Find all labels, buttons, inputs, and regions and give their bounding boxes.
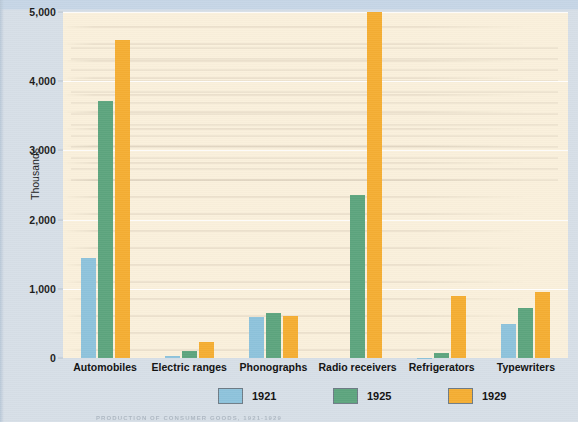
legend-label-1929: 1929 <box>482 390 506 402</box>
bar-automobiles-1929 <box>115 40 130 358</box>
y-axis-tick-label: 5,000 <box>29 6 56 18</box>
bar-phonographs-1921 <box>249 317 264 358</box>
legend-item-1921[interactable]: 1921 <box>218 388 276 404</box>
page-top-edge <box>0 0 578 9</box>
bar-refrigerators-1929 <box>451 296 466 358</box>
y-axis-tick-label: 1,000 <box>29 283 56 295</box>
x-axis-category-labels: AutomobilesElectric rangesPhonographsRad… <box>63 361 568 377</box>
bar-radio-receivers-1925 <box>350 195 365 358</box>
y-axis: Thousands 01,0002,0003,0004,0005,000 <box>0 0 63 370</box>
x-axis-label-typewriters: Typewriters <box>497 361 555 373</box>
x-axis-label-electric-ranges: Electric ranges <box>152 361 227 373</box>
bar-typewriters-1921 <box>501 324 516 358</box>
bar-electric-ranges-1929 <box>199 342 214 358</box>
bar-phonographs-1925 <box>266 313 281 358</box>
y-axis-tick-label: 2,000 <box>29 214 56 226</box>
scanned-page: Thousands 01,0002,0003,0004,0005,000 Aut… <box>0 0 578 422</box>
bar-phonographs-1929 <box>283 316 298 358</box>
bar-typewriters-1925 <box>518 308 533 358</box>
x-axis-label-phonographs: Phonographs <box>240 361 308 373</box>
bar-automobiles-1921 <box>81 258 96 358</box>
x-axis-label-automobiles: Automobiles <box>73 361 137 373</box>
legend-swatch-1929 <box>448 388 473 404</box>
plot-area <box>63 12 568 358</box>
bar-typewriters-1929 <box>535 292 550 358</box>
legend-label-1925: 1925 <box>367 390 391 402</box>
legend-label-1921: 1921 <box>252 390 276 402</box>
bar-refrigerators-1925 <box>434 353 449 358</box>
bar-electric-ranges-1921 <box>165 356 180 358</box>
bar-automobiles-1925 <box>98 101 113 358</box>
y-axis-tick-label: 3,000 <box>29 144 56 156</box>
bar-series-layer <box>63 12 568 358</box>
legend-swatch-1921 <box>218 388 243 404</box>
legend-swatch-1925 <box>333 388 358 404</box>
legend-item-1925[interactable]: 1925 <box>333 388 391 404</box>
x-axis-label-refrigerators: Refrigerators <box>409 361 475 373</box>
y-axis-tick-label: 0 <box>50 352 56 364</box>
legend-item-1929[interactable]: 1929 <box>448 388 506 404</box>
chart-legend: 192119251929 <box>63 388 568 408</box>
x-axis-label-radio-receivers: Radio receivers <box>318 361 396 373</box>
bar-electric-ranges-1925 <box>182 351 197 358</box>
y-axis-tick-label: 4,000 <box>29 75 56 87</box>
bar-radio-receivers-1929 <box>367 12 382 358</box>
figure-caption: PRODUCTION OF CONSUMER GOODS, 1921-1929 <box>96 415 282 421</box>
